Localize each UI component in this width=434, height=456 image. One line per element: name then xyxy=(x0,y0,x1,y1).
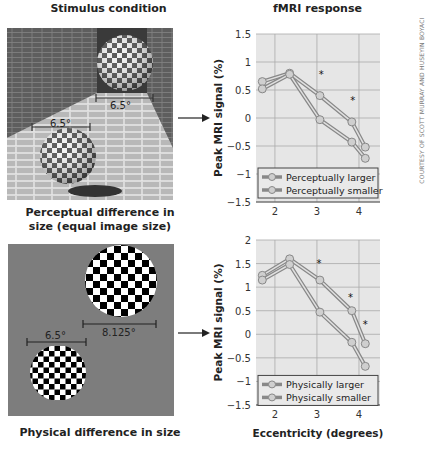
svg-text:Peak MRI signal (%): Peak MRI signal (%) xyxy=(212,264,224,382)
svg-text:2: 2 xyxy=(272,409,278,420)
perceptual-stimulus-image xyxy=(7,28,173,200)
chart-perceptual: 1.510.50−0.5−1−1.5234Peak MRI signal (%)… xyxy=(210,20,390,229)
svg-text:Eccentricity (degrees): Eccentricity (degrees) xyxy=(253,427,384,439)
large-disc-size-label: 8.125° xyxy=(102,327,136,338)
svg-text:0.5: 0.5 xyxy=(235,306,251,317)
svg-text:*: * xyxy=(319,69,324,80)
svg-text:−1.5: −1.5 xyxy=(227,197,251,208)
svg-text:2: 2 xyxy=(245,235,251,246)
svg-text:−0.5: −0.5 xyxy=(227,353,251,364)
svg-text:Physically smaller: Physically smaller xyxy=(286,392,371,403)
arrow-right-icon xyxy=(178,323,210,342)
fmri-response-header: fMRI response xyxy=(250,2,385,15)
svg-text:*: * xyxy=(363,319,368,330)
svg-text:2: 2 xyxy=(272,206,278,217)
image-credit: COURTESY OF SCOTT MURRAY AND HUSEYIN BOY… xyxy=(418,8,425,193)
svg-text:−1.5: −1.5 xyxy=(227,400,251,411)
svg-text:*: * xyxy=(317,258,322,269)
stimulus-condition-header: Stimulus condition xyxy=(0,2,217,15)
perceptual-caption-line1: Perceptual difference in xyxy=(0,206,200,220)
physical-stimulus-image xyxy=(8,244,174,416)
svg-text:3: 3 xyxy=(314,409,320,420)
svg-text:Perceptually larger: Perceptually larger xyxy=(286,172,376,183)
svg-text:0: 0 xyxy=(245,113,251,124)
svg-text:1: 1 xyxy=(245,57,251,68)
svg-text:0.5: 0.5 xyxy=(235,85,251,96)
near-sphere-size-label: 6.5° xyxy=(50,118,71,129)
svg-text:3: 3 xyxy=(314,206,320,217)
svg-text:−1: −1 xyxy=(236,169,251,180)
far-sphere-size-label: 6.5° xyxy=(110,100,131,111)
svg-text:0: 0 xyxy=(245,329,251,340)
physical-caption: Physical difference in size xyxy=(0,426,200,440)
svg-text:*: * xyxy=(348,292,353,303)
svg-text:4: 4 xyxy=(356,206,362,217)
svg-text:1.5: 1.5 xyxy=(235,29,251,40)
svg-text:*: * xyxy=(350,95,355,106)
small-disc-size-label: 6.5° xyxy=(45,330,66,341)
svg-text:1: 1 xyxy=(245,282,251,293)
svg-text:Physically larger: Physically larger xyxy=(286,379,364,390)
chart-physical: 21.510.50−0.5−1−1.5234Peak MRI signal (%… xyxy=(210,230,390,456)
svg-text:Peak MRI signal (%): Peak MRI signal (%) xyxy=(212,59,224,177)
perceptual-caption: Perceptual difference in size (equal ima… xyxy=(0,206,200,234)
perceptual-caption-line2: size (equal image size) xyxy=(0,220,200,234)
svg-text:−0.5: −0.5 xyxy=(227,141,251,152)
svg-text:−1: −1 xyxy=(236,376,251,387)
svg-text:4: 4 xyxy=(356,409,362,420)
arrow-right-icon xyxy=(178,108,210,127)
svg-text:1.5: 1.5 xyxy=(235,259,251,270)
svg-text:Perceptually smaller: Perceptually smaller xyxy=(286,185,383,196)
